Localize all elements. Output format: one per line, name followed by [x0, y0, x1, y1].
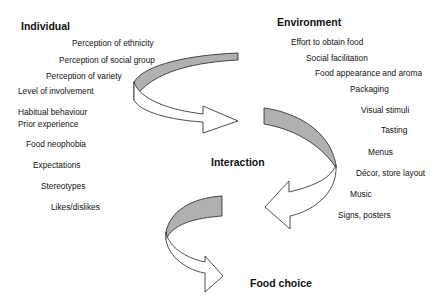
environment-factor: Packaging [350, 85, 389, 93]
environment-factor: Menus [368, 148, 393, 156]
curved-arrow-environment-icon [264, 108, 336, 229]
individual-factor: Expectations [33, 161, 81, 169]
curved-arrow-individual-icon [134, 53, 238, 133]
individual-factor: Stereotypes [41, 182, 85, 190]
heading-environment: Environment [277, 17, 341, 28]
individual-factor: Perception of ethnicity [72, 39, 154, 47]
individual-factor: Level of involvement [18, 87, 94, 95]
environment-factor: Effort to obtain food [291, 38, 363, 46]
heading-food-choice: Food choice [250, 278, 312, 289]
environment-factor: Music [350, 190, 372, 198]
environment-factor: Signs, posters [338, 211, 391, 219]
heading-individual: Individual [21, 21, 70, 32]
curved-arrow-food-choice-icon [166, 196, 223, 292]
environment-factor: Food appearance and aroma [315, 69, 422, 77]
heading-interaction: Interaction [211, 157, 265, 168]
environment-factor: Tasting [381, 126, 407, 134]
individual-factor: Perception of social group [59, 56, 155, 64]
individual-factor: Prior experience [18, 120, 78, 128]
individual-factor: Perception of variety [46, 72, 122, 80]
environment-factor: Décor, store layout [356, 169, 425, 177]
individual-factor: Food neophobia [26, 140, 86, 148]
individual-factor: Likes/dislikes [51, 203, 100, 211]
individual-factor: Habitual behaviour [18, 108, 87, 116]
environment-factor: Visual stimuli [361, 106, 409, 114]
environment-factor: Social facilitation [306, 54, 368, 62]
